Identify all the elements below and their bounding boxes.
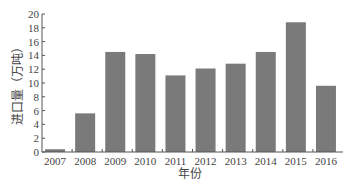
y-axis: 02468101214161820 xyxy=(28,8,45,158)
x-tick-label: 2014 xyxy=(255,155,278,167)
y-tick-label: 16 xyxy=(28,36,40,48)
x-axis: 2007200820092010201120122013201420152016 xyxy=(42,149,343,167)
y-tick-label: 20 xyxy=(28,8,40,20)
x-tick-label: 2016 xyxy=(315,155,338,167)
x-tick-label: 2013 xyxy=(225,155,248,167)
y-tick-label: 0 xyxy=(34,146,40,158)
bars xyxy=(45,22,336,152)
bar xyxy=(165,75,185,152)
y-tick-label: 2 xyxy=(34,132,40,144)
x-tick-label: 2007 xyxy=(44,155,67,167)
bar xyxy=(226,64,246,152)
bar-chart: 02468101214161820 2007200820092010201120… xyxy=(0,0,345,184)
y-tick-label: 4 xyxy=(34,118,40,130)
y-tick-label: 14 xyxy=(28,49,40,61)
y-tick-label: 18 xyxy=(28,22,40,34)
y-tick-label: 10 xyxy=(28,77,40,89)
y-axis-label: 进口量（万吨） xyxy=(11,41,25,125)
y-tick-label: 8 xyxy=(34,91,40,103)
bar xyxy=(286,22,306,152)
y-tick-label: 6 xyxy=(34,105,40,117)
x-tick-label: 2010 xyxy=(134,155,157,167)
bar xyxy=(75,113,95,152)
bar xyxy=(256,52,276,152)
y-tick-label: 12 xyxy=(28,63,39,75)
bar xyxy=(135,54,155,152)
x-tick-label: 2008 xyxy=(74,155,97,167)
x-axis-label: 年份 xyxy=(178,167,202,181)
x-tick-label: 2011 xyxy=(165,155,187,167)
x-tick-label: 2015 xyxy=(285,155,308,167)
bar xyxy=(316,86,336,152)
bar xyxy=(196,69,216,152)
x-tick-label: 2009 xyxy=(104,155,127,167)
bar xyxy=(105,52,125,152)
x-tick-label: 2012 xyxy=(195,155,217,167)
